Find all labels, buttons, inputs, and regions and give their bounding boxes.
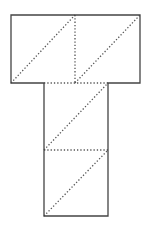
- diagonal-line: [75, 15, 140, 83]
- diagonal-line: [11, 15, 75, 83]
- dotted-lines: [11, 15, 140, 216]
- diagonal-line: [44, 83, 108, 150]
- net-diagram: [0, 0, 155, 230]
- diagonal-line: [44, 150, 108, 216]
